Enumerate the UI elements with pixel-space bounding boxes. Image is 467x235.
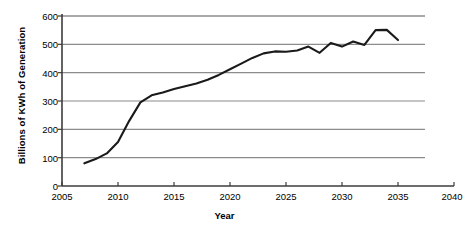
axis-lines bbox=[62, 14, 454, 186]
data-series-line bbox=[84, 30, 398, 163]
